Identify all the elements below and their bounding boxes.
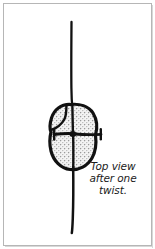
figure-caption: Top view after one twist. <box>80 160 146 197</box>
rope-line-lower <box>72 167 73 233</box>
figure-frame: Top view after one twist. <box>0 0 155 249</box>
frame-shadow-bottom <box>5 246 153 247</box>
rope-line-upper <box>71 22 72 108</box>
knot-illustration <box>4 4 151 245</box>
frame-shadow-right <box>152 5 153 248</box>
